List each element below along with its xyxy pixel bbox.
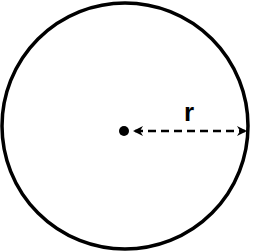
circle-diagram: r xyxy=(0,0,255,251)
circle-outline xyxy=(2,3,248,249)
center-point xyxy=(119,126,129,136)
radius-label: r xyxy=(184,97,194,127)
